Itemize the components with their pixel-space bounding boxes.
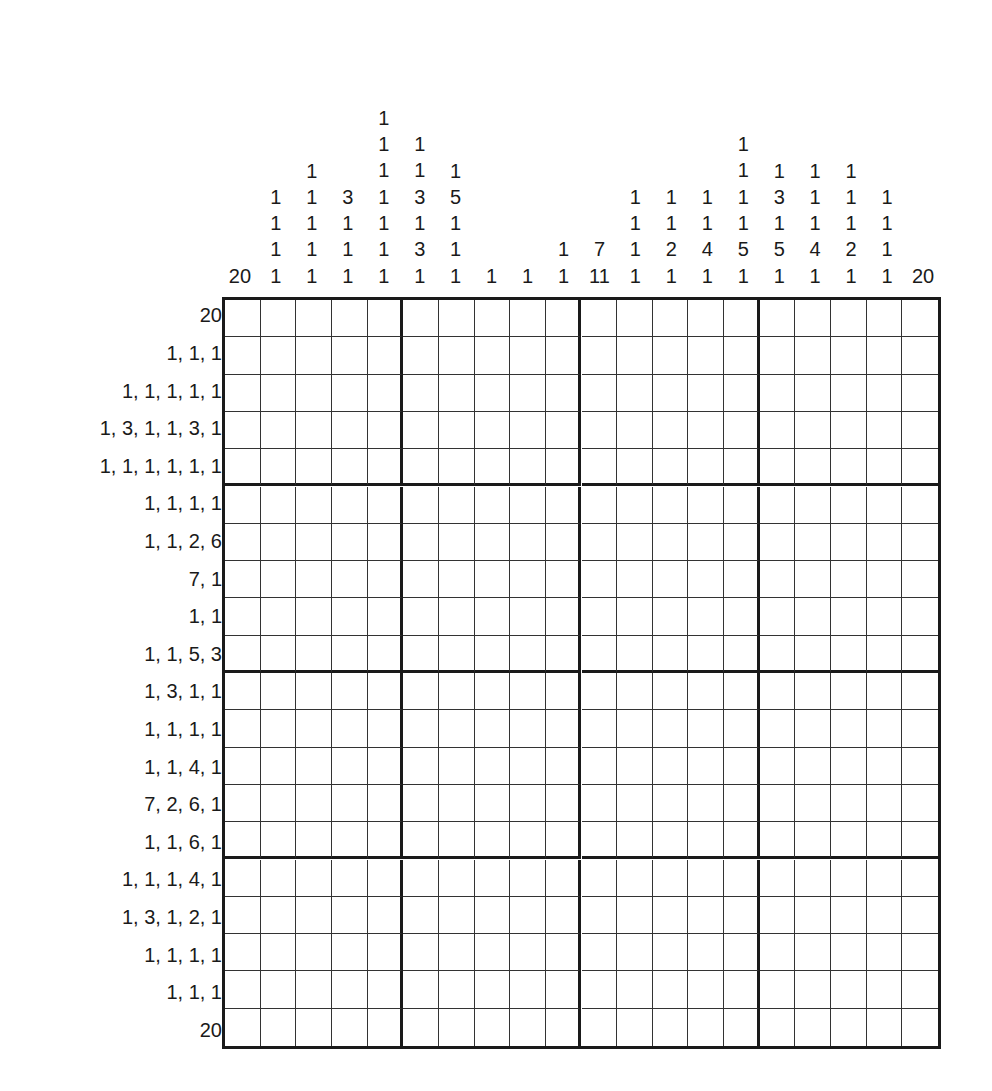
grid-cell[interactable] [617, 487, 653, 524]
grid-cell[interactable] [475, 412, 511, 449]
grid-cell[interactable] [617, 822, 653, 859]
grid-cell[interactable] [617, 897, 653, 934]
grid-cell[interactable] [546, 934, 582, 971]
grid-cell[interactable] [617, 636, 653, 673]
grid-cell[interactable] [902, 375, 938, 412]
grid-cell[interactable] [902, 636, 938, 673]
grid-cell[interactable] [795, 748, 831, 785]
grid-cell[interactable] [902, 337, 938, 374]
grid-cell[interactable] [510, 748, 546, 785]
grid-cell[interactable] [617, 598, 653, 635]
grid-cell[interactable] [225, 934, 261, 971]
grid-cell[interactable] [403, 748, 439, 785]
grid-cell[interactable] [332, 300, 368, 337]
grid-cell[interactable] [261, 300, 297, 337]
grid-cell[interactable] [724, 710, 760, 747]
grid-cell[interactable] [760, 524, 796, 561]
grid-cell[interactable] [831, 487, 867, 524]
grid-cell[interactable] [867, 934, 903, 971]
grid-cell[interactable] [653, 300, 689, 337]
grid-cell[interactable] [617, 412, 653, 449]
grid-cell[interactable] [688, 710, 724, 747]
grid-cell[interactable] [225, 449, 261, 486]
grid-cell[interactable] [724, 860, 760, 897]
grid-cell[interactable] [617, 748, 653, 785]
grid-cell[interactable] [760, 710, 796, 747]
grid-cell[interactable] [368, 449, 404, 486]
grid-cell[interactable] [403, 337, 439, 374]
grid-cell[interactable] [510, 449, 546, 486]
grid-cell[interactable] [724, 971, 760, 1008]
grid-cell[interactable] [403, 710, 439, 747]
grid-cell[interactable] [261, 636, 297, 673]
grid-cell[interactable] [617, 1009, 653, 1046]
grid-cell[interactable] [261, 897, 297, 934]
grid-cell[interactable] [724, 636, 760, 673]
grid-cell[interactable] [296, 785, 332, 822]
grid-cell[interactable] [760, 860, 796, 897]
grid-cell[interactable] [546, 524, 582, 561]
grid-cell[interactable] [332, 1009, 368, 1046]
grid-cell[interactable] [831, 748, 867, 785]
grid-cell[interactable] [475, 971, 511, 1008]
grid-cell[interactable] [867, 673, 903, 710]
grid-cell[interactable] [475, 375, 511, 412]
grid-cell[interactable] [617, 934, 653, 971]
grid-cell[interactable] [831, 524, 867, 561]
puzzle-grid[interactable] [222, 297, 941, 1049]
grid-cell[interactable] [617, 561, 653, 598]
grid-cell[interactable] [510, 1009, 546, 1046]
grid-cell[interactable] [475, 673, 511, 710]
grid-cell[interactable] [795, 934, 831, 971]
grid-cell[interactable] [510, 860, 546, 897]
grid-cell[interactable] [688, 822, 724, 859]
grid-cell[interactable] [546, 971, 582, 1008]
grid-cell[interactable] [582, 412, 618, 449]
grid-cell[interactable] [831, 934, 867, 971]
grid-cell[interactable] [261, 375, 297, 412]
grid-cell[interactable] [368, 412, 404, 449]
grid-cell[interactable] [582, 449, 618, 486]
grid-cell[interactable] [653, 822, 689, 859]
grid-cell[interactable] [225, 971, 261, 1008]
grid-cell[interactable] [296, 897, 332, 934]
grid-cell[interactable] [902, 748, 938, 785]
grid-cell[interactable] [403, 412, 439, 449]
grid-cell[interactable] [475, 1009, 511, 1046]
grid-cell[interactable] [403, 785, 439, 822]
grid-cell[interactable] [831, 598, 867, 635]
grid-cell[interactable] [296, 449, 332, 486]
grid-cell[interactable] [582, 487, 618, 524]
grid-cell[interactable] [582, 598, 618, 635]
grid-cell[interactable] [261, 561, 297, 598]
grid-cell[interactable] [403, 934, 439, 971]
grid-cell[interactable] [831, 673, 867, 710]
grid-cell[interactable] [332, 412, 368, 449]
grid-cell[interactable] [724, 300, 760, 337]
grid-cell[interactable] [902, 710, 938, 747]
grid-cell[interactable] [475, 449, 511, 486]
grid-cell[interactable] [225, 300, 261, 337]
grid-cell[interactable] [332, 524, 368, 561]
grid-cell[interactable] [867, 412, 903, 449]
grid-cell[interactable] [653, 1009, 689, 1046]
grid-cell[interactable] [688, 375, 724, 412]
grid-cell[interactable] [653, 748, 689, 785]
grid-cell[interactable] [475, 860, 511, 897]
grid-cell[interactable] [617, 785, 653, 822]
grid-cell[interactable] [795, 673, 831, 710]
grid-cell[interactable] [510, 971, 546, 1008]
grid-cell[interactable] [368, 785, 404, 822]
grid-cell[interactable] [831, 300, 867, 337]
grid-cell[interactable] [296, 822, 332, 859]
grid-cell[interactable] [403, 598, 439, 635]
grid-cell[interactable] [296, 1009, 332, 1046]
grid-cell[interactable] [653, 412, 689, 449]
grid-cell[interactable] [403, 487, 439, 524]
grid-cell[interactable] [510, 673, 546, 710]
grid-cell[interactable] [368, 673, 404, 710]
grid-cell[interactable] [582, 934, 618, 971]
grid-cell[interactable] [439, 1009, 475, 1046]
grid-cell[interactable] [582, 710, 618, 747]
grid-cell[interactable] [688, 934, 724, 971]
